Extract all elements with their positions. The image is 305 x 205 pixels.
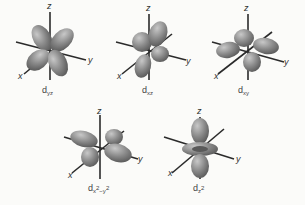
dxy-orbital-diagram xyxy=(200,0,305,100)
y-axis-label: y xyxy=(88,56,93,65)
y-axis-label: y xyxy=(186,57,191,66)
orbital-label-dyz: dyz xyxy=(42,86,53,96)
orbital-dx2-y2: z y x dx2−y2 xyxy=(50,105,160,205)
dyz-orbital-diagram xyxy=(0,0,100,100)
x-axis-label: x xyxy=(18,72,23,81)
y-axis-label: y xyxy=(236,155,241,164)
x-axis-label: x xyxy=(168,169,173,178)
dxz-orbital-diagram xyxy=(100,0,200,100)
y-axis-label: y xyxy=(138,155,143,164)
orbital-dxy: z y x dxy xyxy=(200,0,305,100)
orbital-dxz: z y x dxz xyxy=(100,0,200,100)
z-axis-label: z xyxy=(146,4,151,13)
x-axis-label: x xyxy=(68,171,73,180)
z-axis-label: z xyxy=(97,107,102,116)
orbital-dyz: z y x dyz xyxy=(0,0,100,100)
z-axis-label: z xyxy=(47,2,52,11)
x-axis-label: x xyxy=(117,72,122,81)
y-axis-label: y xyxy=(284,58,289,67)
dz2-orbital-diagram xyxy=(160,105,270,205)
z-axis-label: z xyxy=(244,4,249,13)
x-axis-label: x xyxy=(214,72,219,81)
orbital-label-dxz: dxz xyxy=(142,86,153,96)
orbital-label-dx2-y2: dx2−y2 xyxy=(88,184,109,194)
orbital-dz2: z y x dz2 xyxy=(160,105,270,205)
orbital-label-dz2: dz2 xyxy=(193,184,204,194)
orbital-label-dxy: dxy xyxy=(238,86,249,96)
z-axis-label: z xyxy=(197,107,202,116)
